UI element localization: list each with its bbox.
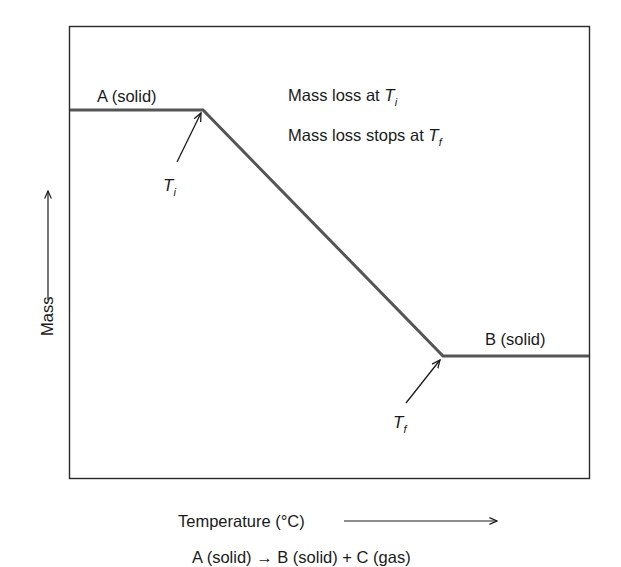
- label-b-solid: B (solid): [485, 330, 546, 348]
- note-mass-loss-at-ti: Mass loss at Ti: [288, 86, 398, 108]
- label-ti: Ti: [163, 176, 176, 198]
- ti-arrow-icon: [177, 113, 201, 162]
- thermogravimetric-chart: A (solid) B (solid) Ti Tf Mass loss at T…: [0, 0, 621, 567]
- reaction-equation: A (solid) → B (solid) + C (gas): [192, 548, 411, 566]
- x-axis-label: Temperature (°C): [178, 512, 305, 530]
- mass-curve-line: [70, 110, 589, 356]
- note-mass-loss-stops-at-tf: Mass loss stops at Tf: [288, 126, 443, 148]
- y-axis-label: Mass: [38, 297, 56, 336]
- label-a-solid: A (solid): [97, 87, 157, 105]
- label-tf: Tf: [393, 413, 407, 435]
- tf-arrow-icon: [406, 360, 440, 403]
